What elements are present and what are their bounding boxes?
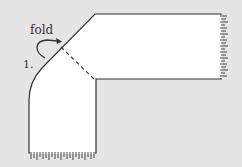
step-number-label: 1. — [23, 59, 34, 70]
scarf-shape — [29, 14, 221, 153]
arrowhead-icon — [56, 38, 62, 44]
fold-label: fold — [30, 24, 53, 36]
fringe-right — [220, 16, 228, 76]
